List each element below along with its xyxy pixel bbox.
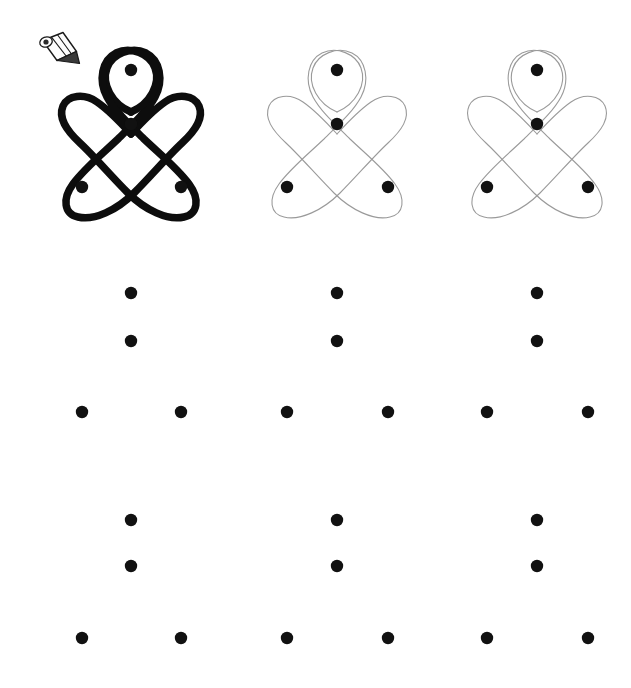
practice-grid-4[interactable] bbox=[76, 514, 187, 644]
grid-dot bbox=[281, 406, 293, 418]
practice-grid-5[interactable] bbox=[281, 514, 394, 644]
grid-dot bbox=[582, 406, 594, 418]
grid-dot bbox=[125, 287, 137, 299]
grid-dot bbox=[331, 335, 343, 347]
kolam-dot bbox=[382, 181, 394, 193]
kolam-dot bbox=[582, 181, 594, 193]
practice-grid-3[interactable] bbox=[481, 287, 594, 418]
kolam-dot bbox=[175, 181, 187, 193]
grid-dot bbox=[531, 514, 543, 526]
kolam-dot bbox=[331, 64, 343, 76]
kolam-dot bbox=[531, 64, 543, 76]
kolam-dot bbox=[125, 118, 137, 130]
grid-dot bbox=[331, 560, 343, 572]
grid-dot bbox=[331, 514, 343, 526]
grid-dot bbox=[125, 560, 137, 572]
kolam-dot bbox=[76, 181, 88, 193]
worksheet-canvas: Kolam dot-grid tracing worksheet bbox=[0, 0, 631, 688]
grid-dot bbox=[531, 560, 543, 572]
kolam-dot bbox=[331, 118, 343, 130]
grid-dot bbox=[125, 514, 137, 526]
practice-grid-2[interactable] bbox=[281, 287, 394, 418]
kolam-figure-trace-1[interactable] bbox=[268, 50, 407, 217]
grid-dot bbox=[481, 406, 493, 418]
grid-dot bbox=[76, 632, 88, 644]
grid-dot bbox=[76, 406, 88, 418]
kolam-dot bbox=[125, 64, 137, 76]
grid-dot bbox=[175, 406, 187, 418]
grid-dot bbox=[382, 406, 394, 418]
grid-dot bbox=[382, 632, 394, 644]
grid-dot bbox=[125, 335, 137, 347]
grid-dot bbox=[582, 632, 594, 644]
kolam-figure-trace-2[interactable] bbox=[468, 50, 607, 217]
grid-dot bbox=[175, 632, 187, 644]
pencil-icon bbox=[38, 33, 79, 64]
grid-dot bbox=[281, 632, 293, 644]
practice-grid-1[interactable] bbox=[76, 287, 187, 418]
grid-dot bbox=[531, 287, 543, 299]
kolam-dot bbox=[531, 118, 543, 130]
kolam-dot bbox=[481, 181, 493, 193]
grid-dot bbox=[481, 632, 493, 644]
grid-dot bbox=[531, 335, 543, 347]
kolam-dot bbox=[281, 181, 293, 193]
grid-dot bbox=[331, 287, 343, 299]
practice-grid-6[interactable] bbox=[481, 514, 594, 644]
kolam-figure-bold[interactable] bbox=[62, 50, 201, 217]
worksheet-drawing-area[interactable] bbox=[0, 0, 631, 688]
